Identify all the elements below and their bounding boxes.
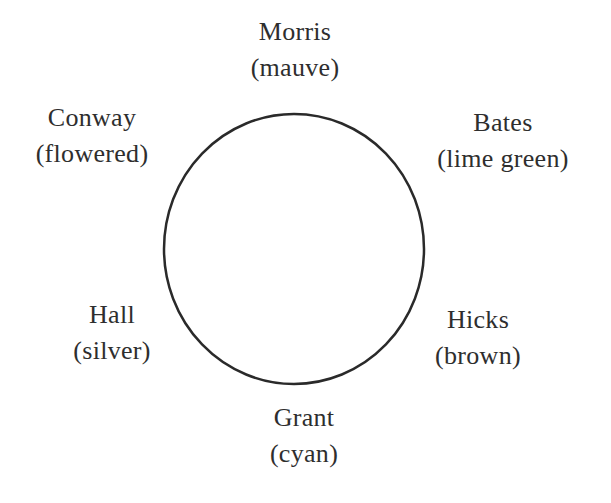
person-color: (cyan) bbox=[270, 436, 338, 472]
person-name: Hicks bbox=[435, 302, 521, 338]
person-name: Bates bbox=[437, 105, 568, 141]
person-name: Morris bbox=[251, 14, 340, 50]
person-name: Grant bbox=[270, 400, 338, 436]
seat-label-grant: Grant (cyan) bbox=[270, 400, 338, 472]
seat-label-hall: Hall (silver) bbox=[73, 297, 150, 369]
seat-label-hicks: Hicks (brown) bbox=[435, 302, 521, 374]
person-color: (brown) bbox=[435, 338, 521, 374]
person-color: (silver) bbox=[73, 333, 150, 369]
person-name: Conway bbox=[36, 100, 149, 136]
round-table-circle bbox=[164, 114, 424, 384]
person-color: (lime green) bbox=[437, 141, 568, 177]
seat-label-morris: Morris (mauve) bbox=[251, 14, 340, 86]
person-name: Hall bbox=[73, 297, 150, 333]
seat-label-conway: Conway (flowered) bbox=[36, 100, 149, 172]
person-color: (mauve) bbox=[251, 50, 340, 86]
seat-label-bates: Bates (lime green) bbox=[437, 105, 568, 177]
person-color: (flowered) bbox=[36, 136, 149, 172]
